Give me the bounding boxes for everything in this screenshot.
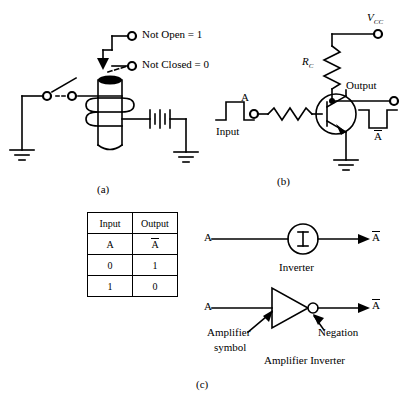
a-bar-inverter: A (372, 231, 380, 243)
symbol-a: A (88, 234, 133, 255)
panel-b-caption: (b) (277, 176, 290, 187)
panel-a-switch-blade (52, 78, 76, 92)
panel-a-dashed-linkage (108, 66, 128, 72)
panel-b-output-waveform-label: A (374, 130, 382, 142)
panel-b-output-label: Output (346, 80, 377, 91)
cell-in-0: 0 (88, 255, 133, 276)
supply-v: V (367, 11, 374, 23)
panel-a-terminal-lower (128, 62, 136, 70)
panel-c-amp-arrowhead (358, 303, 370, 313)
header-output: Output (133, 213, 178, 234)
panel-b-base-resistor (268, 108, 312, 120)
amp-inverter-input-label: A (204, 301, 212, 312)
inverter-caption: Inverter (279, 262, 314, 273)
header-input: Input (88, 213, 133, 234)
resistor-r: R (302, 55, 309, 67)
panel-a-winding-2-left (86, 112, 98, 126)
cell-out-1: 0 (133, 276, 178, 297)
cell-out-0: 1 (133, 255, 178, 276)
panel-c-negation-bubble (308, 303, 318, 313)
amplifier-symbol-annotation-line2: symbol (214, 342, 246, 353)
a-bar-table: A (151, 238, 158, 250)
table-row: 1 0 (88, 276, 178, 297)
panel-a-switch-contact-right (68, 92, 76, 100)
panel-b-resistor-label: RC (302, 56, 313, 70)
panel-a-not-closed-label: Not Closed = 0 (142, 59, 209, 70)
panel-b-input-waveform (216, 102, 254, 120)
figure-canvas: Not Open = 1 Not Closed = 0 (a) VCC RC O… (0, 0, 415, 404)
panel-c-amp-triangle (272, 288, 308, 328)
panel-a-caption: (a) (97, 184, 109, 195)
table-header-row: Input Output (88, 213, 178, 234)
panel-b-output-node (329, 98, 335, 104)
panel-a-switch-contact-left (43, 92, 51, 100)
truth-table: Input Output A A 0 1 1 0 (87, 212, 178, 297)
panel-b-input-label: Input (216, 126, 239, 137)
panel-b-input-terminal (250, 110, 258, 118)
panel-a-terminal-upper (128, 32, 136, 40)
amp-inverter-output-label: A (372, 299, 380, 311)
panel-a-not-open-label: Not Open = 1 (142, 29, 202, 40)
a-bar-amp: A (372, 299, 380, 311)
resistor-subscript: C (309, 62, 314, 70)
a-bar-b: A (374, 130, 382, 142)
panel-c-negation-annotation-arrowhead (313, 314, 324, 325)
panel-b-output-waveform (359, 110, 397, 128)
panel-b-output-terminal (390, 97, 398, 105)
amplifier-symbol-annotation-line1: Amplifier (207, 327, 250, 338)
panel-a-coil-bottom (98, 145, 122, 150)
cell-in-1: 1 (88, 276, 133, 297)
inverter-input-label: A (204, 232, 212, 243)
panel-b-input-node-label: A (241, 92, 249, 103)
supply-subscript: CC (374, 18, 383, 26)
amp-inverter-caption: Amplifier Inverter (264, 355, 345, 366)
panel-c-inverter-arrowhead (358, 234, 370, 244)
table-row: 0 1 (88, 255, 178, 276)
panel-c-caption: (c) (196, 379, 208, 390)
panel-a-winding-1-right (122, 98, 134, 112)
panel-a-actuator-arrowhead (97, 58, 109, 70)
negation-annotation: Negation (318, 327, 358, 338)
symbol-a-bar: A (133, 234, 178, 255)
panel-a-plunger-cap (98, 76, 122, 85)
panel-b-collector-resistor (324, 46, 340, 89)
panel-b-supply-label: VCC (367, 12, 383, 26)
inverter-output-label: A (372, 231, 380, 243)
table-symbol-row: A A (88, 234, 178, 255)
panel-b-vcc-terminal (374, 30, 382, 38)
panel-a-winding-1-left (86, 98, 98, 112)
